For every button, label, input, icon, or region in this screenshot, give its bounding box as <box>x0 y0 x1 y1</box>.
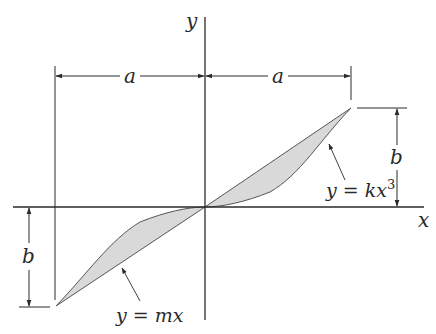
dimension-a-left: a <box>56 64 204 88</box>
line-callout: y = mx <box>115 268 184 326</box>
x-axis-label: x <box>418 208 429 232</box>
y-axis-label: y <box>185 9 198 33</box>
dimension-a-right: a <box>206 64 350 88</box>
cubic-curve-label-exponent: 3 <box>387 177 395 192</box>
cubic-curve-label: y = kx3 <box>325 177 395 201</box>
dimension-b-right-label: b <box>390 145 403 169</box>
line-label: y = mx <box>115 304 184 326</box>
dimension-a-right-label: a <box>272 64 284 88</box>
dimension-a-left-label: a <box>124 64 136 88</box>
dimension-b-left-label: b <box>22 244 35 268</box>
cubic-curve-label-base: y = kx <box>325 179 387 201</box>
cubic-curve-callout: y = kx3 <box>325 144 395 201</box>
area-diagram: y x a a b b y = kx3 y = mx <box>0 0 436 334</box>
dimension-b-left: b <box>22 208 35 306</box>
